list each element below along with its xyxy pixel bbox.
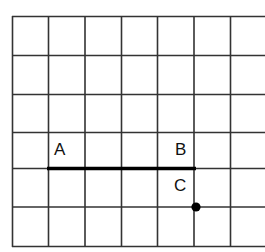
grid-canvas [0, 0, 265, 252]
point-label-a: A [54, 141, 65, 158]
point-label-b: B [175, 141, 186, 158]
grid-vertical-lines [13, 16, 231, 247]
point-label-c: C [174, 177, 186, 194]
grid-figure: A B C [0, 0, 265, 252]
grid-horizontal-lines [12, 17, 265, 247]
point-c-marker [191, 202, 200, 211]
